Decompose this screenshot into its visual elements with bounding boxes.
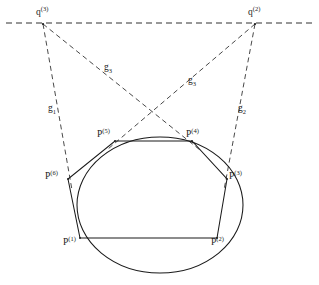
- vertex-marker-p3: [226, 178, 228, 180]
- label-g3-right: g3: [188, 76, 196, 87]
- label-g1-sub: 1: [53, 108, 56, 115]
- label-q2-sup: (2): [253, 5, 261, 12]
- label-q3-sup: (3): [41, 5, 49, 12]
- label-q3: q(3): [36, 6, 48, 18]
- vertex-marker-p5: [114, 140, 116, 142]
- label-p6-sup: (6): [50, 169, 58, 176]
- label-g3-right-sub: 3: [193, 80, 196, 87]
- label-p3: P(3): [229, 170, 242, 182]
- label-p2: P(2): [211, 236, 224, 248]
- label-p1-sup: (1): [68, 235, 76, 242]
- label-p4: P(4): [186, 128, 199, 140]
- line-g3-left: [43, 24, 200, 150]
- inscribed-hexagon: [68, 141, 227, 238]
- label-p4-sup: (4): [191, 127, 199, 134]
- label-g3-left-sub: 3: [109, 67, 112, 74]
- vertex-marker-p6: [67, 178, 69, 180]
- vertex-marker-p4: [191, 140, 193, 142]
- line-g3-right: [108, 24, 255, 149]
- vertex-marker-q2: [254, 23, 256, 25]
- label-p5-sup: (5): [102, 127, 110, 134]
- ellipse: [77, 137, 243, 273]
- label-p2-sup: (2): [216, 235, 224, 242]
- label-g1: g1: [48, 104, 56, 115]
- vertex-marker-q3: [42, 23, 44, 25]
- label-p6: P(6): [45, 170, 58, 182]
- label-g2-sub: 2: [243, 108, 246, 115]
- label-p5: P(5): [97, 128, 110, 140]
- label-p3-sup: (3): [234, 169, 242, 176]
- vertex-marker-p1: [79, 237, 81, 239]
- label-g2: g2: [238, 104, 246, 115]
- label-g3-left: g3: [104, 63, 112, 74]
- geometry-figure: [0, 0, 319, 285]
- label-p1: P(1): [63, 236, 76, 248]
- label-q2: q(2): [248, 6, 260, 18]
